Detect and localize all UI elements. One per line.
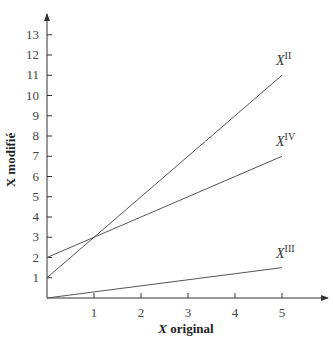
x-tick-label: 3 bbox=[185, 305, 192, 320]
y-tick-label: 8 bbox=[33, 128, 40, 143]
x-axis-title: X original bbox=[157, 321, 214, 336]
y-axis-title: X modifié bbox=[3, 133, 18, 188]
x-ticks: 12345 bbox=[91, 293, 286, 320]
y-tick-label: 7 bbox=[33, 148, 40, 163]
series-label-iii: XIII bbox=[275, 243, 295, 261]
y-tick-label: 3 bbox=[33, 229, 40, 244]
x-tick-label: 4 bbox=[232, 305, 239, 320]
y-tick-label: 9 bbox=[33, 108, 40, 123]
y-tick-label: 12 bbox=[26, 47, 39, 62]
series-line-ii bbox=[47, 75, 282, 278]
x-tick-label: 5 bbox=[279, 305, 286, 320]
series-label-iv: XIV bbox=[275, 131, 296, 149]
series-label-ii: XII bbox=[275, 50, 291, 68]
series-line-iii bbox=[47, 268, 282, 298]
y-tick-label: 4 bbox=[33, 209, 40, 224]
y-tick-label: 10 bbox=[26, 88, 39, 103]
y-tick-label: 2 bbox=[33, 250, 40, 265]
line-chart: 12345 12345678910111213 XIIXIVXIII X ori… bbox=[0, 0, 333, 348]
y-tick-label: 11 bbox=[26, 67, 39, 82]
series-line-iv bbox=[47, 156, 282, 257]
series-labels: XIIXIVXIII bbox=[275, 50, 296, 260]
series-lines bbox=[47, 75, 282, 298]
y-tick-label: 1 bbox=[33, 270, 40, 285]
x-tick-label: 1 bbox=[91, 305, 98, 320]
y-tick-label: 6 bbox=[33, 169, 40, 184]
x-tick-label: 2 bbox=[138, 305, 145, 320]
y-tick-label: 13 bbox=[26, 27, 39, 42]
y-ticks: 12345678910111213 bbox=[26, 27, 52, 285]
y-tick-label: 5 bbox=[33, 189, 40, 204]
